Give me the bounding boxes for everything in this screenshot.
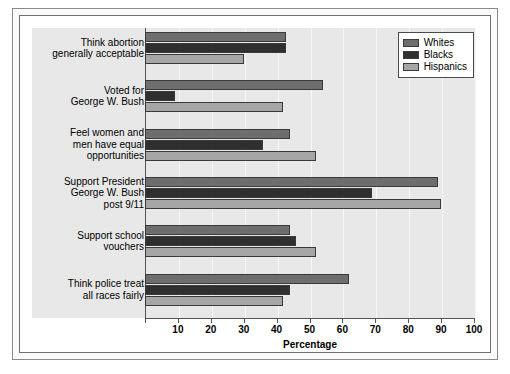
bar — [145, 177, 438, 187]
category-label-line: George W. Bush — [34, 96, 144, 108]
bar — [145, 140, 263, 150]
x-axis-label: Percentage — [145, 339, 475, 350]
category-label-line: Think police treat — [34, 278, 144, 290]
bar — [145, 80, 323, 90]
category-label-line: opportunities — [34, 150, 144, 162]
legend-item: Whites — [403, 37, 467, 49]
bar-group: Think police treatall races fairly — [145, 270, 475, 318]
bar — [145, 274, 349, 284]
chart-legend: WhitesBlacksHispanics — [398, 32, 474, 78]
bar — [145, 188, 372, 198]
category-label-line: George W. Bush — [34, 187, 144, 199]
bar — [145, 247, 316, 257]
x-tick — [145, 318, 146, 323]
bar — [145, 199, 441, 209]
x-tick — [244, 318, 245, 323]
x-tick-label: 100 — [454, 324, 494, 335]
x-tick — [178, 318, 179, 323]
category-label: Voted forGeorge W. Bush — [34, 85, 144, 108]
bar — [145, 102, 283, 112]
bar — [145, 236, 296, 246]
chart-figure: 102030405060708090100 Think abortiongene… — [12, 8, 498, 360]
category-label-line: Support school — [34, 230, 144, 242]
category-label-line: Think abortion — [34, 37, 144, 49]
legend-swatch — [403, 39, 419, 47]
category-label: Support PresidentGeorge W. Bushpost 9/11 — [34, 176, 144, 211]
category-label-line: generally acceptable — [34, 48, 144, 60]
x-tick — [474, 318, 475, 323]
category-label-line: vouchers — [34, 241, 144, 253]
gridline — [475, 28, 476, 318]
legend-swatch — [403, 63, 419, 71]
bar — [145, 225, 290, 235]
category-label-line: Feel women and — [34, 127, 144, 139]
category-label: Support schoolvouchers — [34, 230, 144, 253]
bar-group: Support PresidentGeorge W. Bushpost 9/11 — [145, 173, 475, 221]
category-label: Think police treatall races fairly — [34, 278, 144, 301]
x-tick — [211, 318, 212, 323]
legend-label: Whites — [424, 37, 455, 49]
bar — [145, 91, 175, 101]
x-tick — [375, 318, 376, 323]
bar — [145, 43, 286, 53]
x-tick — [408, 318, 409, 323]
bar — [145, 32, 286, 42]
x-tick — [441, 318, 442, 323]
bar — [145, 54, 244, 64]
legend-item: Blacks — [403, 49, 467, 61]
chart-inner-frame: 102030405060708090100 Think abortiongene… — [19, 15, 491, 353]
category-label-line: Support President — [34, 176, 144, 188]
category-label-line: men have equal — [34, 139, 144, 151]
category-label: Think abortiongenerally acceptable — [34, 37, 144, 60]
legend-swatch — [403, 51, 419, 59]
category-label-line: post 9/11 — [34, 199, 144, 211]
bar-group: Voted forGeorge W. Bush — [145, 76, 475, 124]
bar-group: Support schoolvouchers — [145, 221, 475, 269]
x-tick — [310, 318, 311, 323]
legend-label: Hispanics — [424, 61, 467, 73]
bar-group: Feel women andmen have equalopportunitie… — [145, 125, 475, 173]
legend-label: Blacks — [424, 49, 453, 61]
bar — [145, 129, 290, 139]
x-tick — [342, 318, 343, 323]
bar — [145, 151, 316, 161]
category-label-line: all races fairly — [34, 290, 144, 302]
bar — [145, 296, 283, 306]
bar — [145, 285, 290, 295]
x-tick — [277, 318, 278, 323]
category-label: Feel women andmen have equalopportunitie… — [34, 127, 144, 162]
category-label-line: Voted for — [34, 85, 144, 97]
legend-item: Hispanics — [403, 61, 467, 73]
category-axis-background — [32, 28, 145, 318]
